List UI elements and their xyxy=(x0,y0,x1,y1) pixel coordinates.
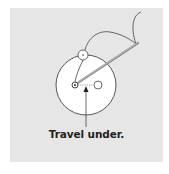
top-bead-dot xyxy=(82,54,84,56)
diagram-caption: Travel under. xyxy=(0,128,169,140)
thread-arc xyxy=(85,32,137,50)
sewing-button-illustration xyxy=(0,0,169,174)
left-hole-inner xyxy=(74,84,76,86)
thread-tail xyxy=(133,12,141,44)
diagram-stage: Travel under. xyxy=(0,0,169,174)
right-hole xyxy=(94,81,102,89)
